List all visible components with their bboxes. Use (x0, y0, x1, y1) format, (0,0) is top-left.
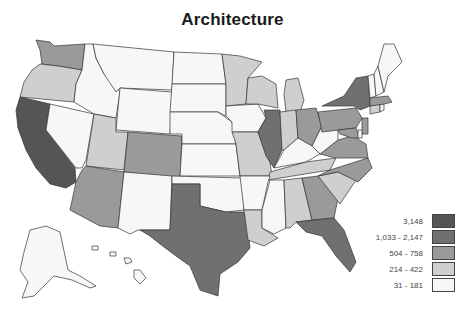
state-DE[interactable] (358, 130, 362, 138)
legend-label: 31 - 181 (394, 281, 423, 290)
legend-item: 3,148 (350, 214, 455, 230)
state-RI[interactable] (380, 104, 384, 112)
legend-swatch (432, 214, 455, 228)
legend-item: 1,033 - 2,147 (350, 230, 455, 246)
state-HI-oahu (110, 252, 116, 256)
state-CO[interactable] (124, 132, 182, 178)
state-HI-kauai (92, 246, 98, 250)
state-NJ[interactable] (362, 118, 368, 134)
legend-label: 504 - 758 (389, 249, 423, 258)
state-HI-maui (124, 258, 132, 264)
legend-item: 214 - 422 (350, 262, 455, 278)
state-KS[interactable] (180, 144, 240, 176)
state-WI[interactable] (246, 76, 278, 108)
legend: 3,148 1,033 - 2,147 504 - 758 214 - 422 … (350, 214, 455, 294)
legend-swatch (432, 262, 455, 276)
state-SD[interactable] (170, 84, 226, 116)
legend-label: 214 - 422 (389, 265, 423, 274)
state-FL[interactable] (296, 218, 356, 272)
state-MI[interactable] (284, 78, 304, 112)
state-NY[interactable] (322, 76, 370, 110)
state-NM[interactable] (118, 172, 172, 234)
state-MA[interactable] (370, 96, 392, 106)
legend-label: 1,033 - 2,147 (376, 233, 423, 242)
state-OR[interactable] (20, 64, 82, 102)
state-HI[interactable] (134, 270, 146, 284)
legend-swatch (432, 246, 455, 260)
state-ND[interactable] (172, 52, 226, 84)
legend-swatch (432, 278, 455, 292)
legend-label: 3,148 (403, 217, 423, 226)
legend-item: 504 - 758 (350, 246, 455, 262)
legend-item: 31 - 181 (350, 278, 455, 294)
state-AK[interactable] (20, 226, 96, 298)
legend-swatch (432, 230, 455, 244)
state-WY[interactable] (116, 88, 172, 134)
state-AZ[interactable] (70, 166, 124, 228)
state-MD[interactable] (338, 128, 360, 138)
